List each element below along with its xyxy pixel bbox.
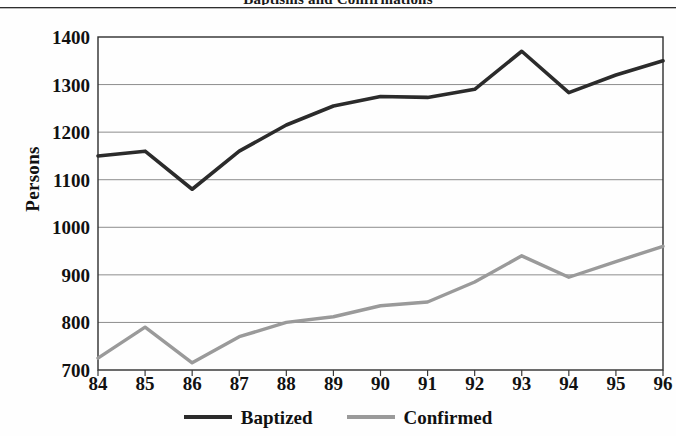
- x-axis-tick-label: 95: [594, 374, 638, 393]
- x-axis-tick-label: 91: [406, 374, 450, 393]
- chart-legend: BaptizedConfirmed: [0, 402, 676, 432]
- x-axis-tick-label: 85: [123, 374, 167, 393]
- x-axis-tick-label: 93: [500, 374, 544, 393]
- chart-plot-area: [0, 0, 676, 436]
- series-line-confirmed: [98, 246, 663, 363]
- x-axis-tick-labels: 84858687888990919293949596: [0, 374, 676, 400]
- x-axis-tick-label: 92: [453, 374, 497, 393]
- legend-label: Confirmed: [404, 408, 493, 427]
- x-axis-tick-label: 96: [641, 374, 676, 393]
- legend-entry-confirmed[interactable]: Confirmed: [347, 408, 493, 427]
- x-axis-tick-label: 89: [311, 374, 355, 393]
- x-axis-tick-label: 84: [76, 374, 120, 393]
- plot-border: [98, 37, 663, 370]
- data-series-lines: [98, 51, 663, 363]
- legend-swatch-baptized: [184, 415, 232, 419]
- legend-label: Baptized: [241, 408, 313, 427]
- x-axis-tick-label: 88: [264, 374, 308, 393]
- x-axis-tick-label: 87: [217, 374, 261, 393]
- x-axis-tick-label: 94: [547, 374, 591, 393]
- chart-figure: Baptisms and Confirmations Persons 70080…: [0, 0, 676, 436]
- x-axis-tick-label: 86: [170, 374, 214, 393]
- x-axis-tick-label: 90: [359, 374, 403, 393]
- series-line-baptized: [98, 51, 663, 189]
- plot-frame: [98, 37, 663, 370]
- legend-swatch-confirmed: [347, 415, 395, 419]
- legend-entry-baptized[interactable]: Baptized: [184, 408, 313, 427]
- gridlines: [98, 85, 663, 323]
